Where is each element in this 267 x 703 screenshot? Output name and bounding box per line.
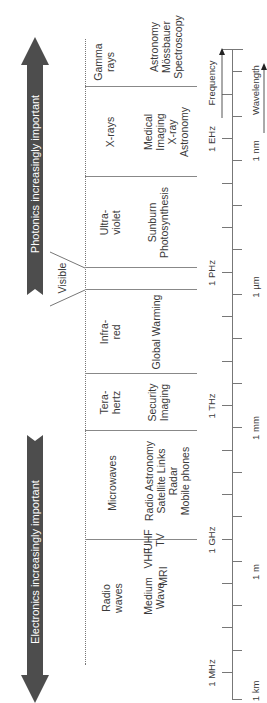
app-thz-line2: Imaging <box>158 374 170 431</box>
photonics-arrow-label: Photonics increasingly important <box>29 95 41 253</box>
axis-tick <box>232 205 242 206</box>
band-infrared-label: Infra- red <box>98 290 122 374</box>
band-ultraviolet-label: Ultra- violet <box>98 177 122 268</box>
freq-tick-1mhz: 1 MHz <box>206 650 218 696</box>
axis-tick <box>222 539 232 540</box>
band-thz-line1: Tera- <box>98 374 110 431</box>
app-micro-line1: Radio Astronomy <box>143 431 155 531</box>
axis-tick <box>232 605 242 606</box>
axis-tick <box>222 672 232 673</box>
app-uv-line1: Sunburn <box>146 177 158 268</box>
app-xray-line4: Astronomy <box>178 87 190 177</box>
freq-tick-1phz: 1 PHz <box>206 250 218 296</box>
band-xrays-label: X-rays <box>104 87 116 177</box>
axis-tick <box>232 338 242 339</box>
band-uv-line1: Ultra- <box>98 177 110 268</box>
app-gamma-line3: Spectroscopy <box>172 7 184 87</box>
arrow-head-down-icon <box>21 675 49 703</box>
axis-tick <box>232 516 242 517</box>
wave-tick-1m: 1 m <box>250 552 262 592</box>
axis-tick <box>222 405 232 406</box>
axis-end-tick <box>222 49 243 50</box>
app-ultraviolet: Sunburn Photosynthesis <box>146 177 170 268</box>
axis-tick <box>232 160 242 161</box>
electronics-arrow-label: Electronics increasingly important <box>29 480 41 644</box>
band-gamma-label: Gamma rays <box>92 37 116 87</box>
axis-tick <box>222 138 232 139</box>
app-xray-line1: Medical <box>142 87 154 177</box>
axis-tick <box>222 227 232 228</box>
axis-tick <box>232 650 242 651</box>
app-medium-line1: Medium <box>142 571 154 621</box>
axis-tick <box>222 450 232 451</box>
band-radio-label: Radio waves <box>100 563 124 633</box>
band-radio-line1: Radio <box>100 563 112 633</box>
axis-tick <box>222 316 232 317</box>
axis-tick <box>232 249 242 250</box>
app-mri: MRI <box>157 561 169 591</box>
app-micro-line3: Radar <box>167 431 179 531</box>
arrow-notch-icon <box>27 283 43 295</box>
visible-leader-lines <box>48 248 88 308</box>
band-gamma-line1: Gamma <box>92 37 104 87</box>
wave-tick-1nm: 1 nm <box>250 131 262 171</box>
band-terahertz-label: Tera- hertz <box>98 374 122 431</box>
frequency-label: Frequency <box>206 53 218 113</box>
app-gamma-line1: Astronomy <box>148 7 160 87</box>
band-ir-line2: red <box>110 290 122 374</box>
axis-tick <box>232 116 242 117</box>
axis-start-tick <box>232 699 242 700</box>
band-ir-line1: Infra- <box>98 290 110 374</box>
axis-tick <box>232 472 242 473</box>
band-uv-line2: violet <box>110 177 122 268</box>
app-xray-line2: Imaging <box>154 87 166 177</box>
spectrum-axis <box>232 50 233 700</box>
band-radio-line2: waves <box>112 563 124 633</box>
axis-tick <box>222 627 232 628</box>
axis-tick <box>232 383 242 384</box>
axis-tick <box>222 494 232 495</box>
band-visible-label: Visible <box>56 258 68 298</box>
app-xrays: Medical Imaging X-ray Astronomy <box>142 87 190 177</box>
axis-tick <box>222 272 232 273</box>
axis-tick <box>222 583 232 584</box>
app-terahertz: Security Imaging <box>146 374 170 431</box>
wave-tick-1um: 1 µm <box>250 267 262 307</box>
app-uv-line2: Photosynthesis <box>158 177 170 268</box>
app-gamma: Astronomy Mössbauer Spectroscopy <box>148 7 184 87</box>
freq-tick-1ghz: 1 GHz <box>206 517 218 563</box>
photonics-arrow: Photonics increasingly important <box>27 63 43 285</box>
freq-tick-1ehz: 1 EHz <box>206 116 218 162</box>
spectrum-diagram: Photonics increasingly important Electro… <box>0 0 267 703</box>
axis-tick <box>222 361 232 362</box>
band-thz-line2: hertz <box>110 374 122 431</box>
axis-tick <box>222 183 232 184</box>
app-thz-line1: Security <box>146 374 158 431</box>
divider-radio-micro <box>85 539 197 540</box>
freq-tick-1thz: 1 THz <box>206 383 218 429</box>
wave-tick-1km: 1 km <box>250 671 262 703</box>
band-gamma-line2: rays <box>104 37 116 87</box>
axis-tick <box>232 427 242 428</box>
app-infrared: Global Warming <box>150 290 162 374</box>
band-top-line <box>85 39 86 665</box>
axis-tick <box>232 561 242 562</box>
wavelength-arrow-icon <box>261 63 267 133</box>
app-micro-line4: Mobile phones <box>179 431 191 531</box>
band-microwaves-label: Microwaves <box>106 443 118 523</box>
wave-tick-1mm: 1 mm <box>250 408 262 448</box>
frequency-arrow-icon <box>219 48 225 118</box>
app-microwaves: Radio Astronomy Satellite Links Radar Mo… <box>143 431 191 531</box>
axis-tick <box>232 294 242 295</box>
arrow-head-up-icon <box>21 35 49 65</box>
arrow-tail-icon <box>27 435 43 447</box>
app-xray-line3: X-ray <box>166 87 178 177</box>
electronics-arrow: Electronics increasingly important <box>27 447 43 677</box>
app-micro-line2: Satellite Links <box>155 431 167 531</box>
app-gamma-line2: Mössbauer <box>160 7 172 87</box>
axis-tick <box>232 71 242 72</box>
